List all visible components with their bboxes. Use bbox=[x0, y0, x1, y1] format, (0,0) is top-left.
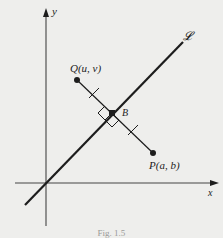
x-axis-arrow-icon bbox=[210, 180, 219, 186]
point-B-label: B bbox=[122, 108, 128, 118]
x-axis-label: x bbox=[208, 188, 212, 198]
point-B-dot bbox=[109, 110, 115, 116]
y-axis-label: y bbox=[52, 6, 57, 17]
reflection-diagram: y x 𝓛 Q(u, v) B P(a, b) Fig. 1.5 bbox=[0, 0, 223, 238]
point-Q-label: Q(u, v) bbox=[70, 63, 101, 74]
point-Q-dot bbox=[74, 77, 80, 83]
point-P-label: P(a, b) bbox=[149, 160, 180, 171]
y-axis bbox=[43, 8, 49, 226]
y-axis-arrow-icon bbox=[43, 8, 49, 17]
figure-caption: Fig. 1.5 bbox=[0, 229, 223, 238]
line-L-label: 𝓛 bbox=[183, 30, 192, 42]
point-P-dot bbox=[150, 150, 156, 156]
line-L bbox=[25, 42, 183, 205]
